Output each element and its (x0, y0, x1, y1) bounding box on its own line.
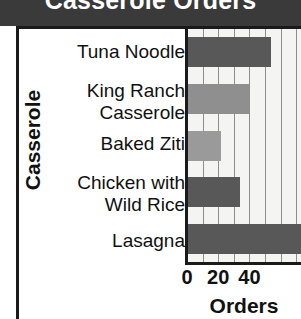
category-label-baked-ziti: Baked Ziti (101, 133, 185, 155)
x-tick-label-20: 20 (203, 266, 233, 289)
category-label-tuna-noodle: Tuna Noodle (77, 41, 185, 63)
y-axis-title: Casserole (21, 45, 45, 235)
frame-left-border (16, 26, 19, 319)
bar-4 (187, 224, 301, 254)
y-axis-line (185, 29, 188, 265)
category-label-chicken-wild-rice: Chicken with Wild Rice (77, 172, 185, 216)
bar-0 (187, 37, 271, 67)
x-tick-label-40: 40 (234, 266, 264, 289)
x-axis-title: Orders (187, 294, 301, 318)
category-label-king-ranch: King Ranch Casserole (87, 80, 185, 124)
x-tick-label-0: 0 (172, 266, 202, 289)
chart-figure: Casserole Orders Casserole Tuna Noodle K… (0, 0, 301, 319)
plot-area (187, 29, 301, 262)
bar-2 (187, 131, 221, 161)
chart-title-band: Casserole Orders (0, 0, 301, 26)
category-label-lasagna: Lasagna (112, 230, 185, 252)
bar-3 (187, 177, 240, 207)
bar-1 (187, 84, 249, 114)
x-axis-line (185, 262, 301, 265)
chart-title: Casserole Orders (0, 0, 301, 15)
